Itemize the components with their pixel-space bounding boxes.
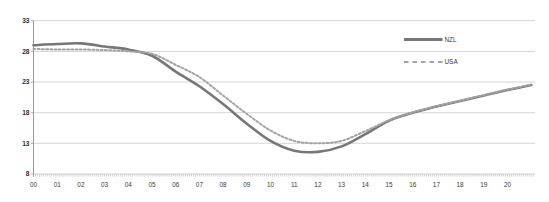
x-tick-label: 19 bbox=[480, 181, 488, 188]
x-tick-label: 00 bbox=[30, 181, 38, 188]
x-tick-label: 10 bbox=[267, 181, 275, 188]
x-tick-label: 05 bbox=[148, 181, 156, 188]
x-tick-label: 02 bbox=[77, 181, 85, 188]
x-tick-label: 03 bbox=[101, 181, 109, 188]
x-tick-label: 16 bbox=[409, 181, 417, 188]
x-tick-label: 07 bbox=[196, 181, 204, 188]
chart-canvas: 3328231813800010203040506070809101112131… bbox=[0, 0, 549, 202]
legend-label-nzl: NZL bbox=[445, 36, 458, 43]
x-tick-label: 06 bbox=[172, 181, 180, 188]
x-tick-label: 12 bbox=[314, 181, 322, 188]
x-tick-label: 13 bbox=[338, 181, 346, 188]
y-tick-label: 28 bbox=[22, 48, 30, 55]
line-chart-figure: 3328231813800010203040506070809101112131… bbox=[0, 0, 549, 202]
x-tick-label: 14 bbox=[362, 181, 370, 188]
x-tick-label: 18 bbox=[457, 181, 465, 188]
x-tick-label: 01 bbox=[54, 181, 62, 188]
y-tick-label: 8 bbox=[26, 170, 30, 177]
x-tick-label: 04 bbox=[125, 181, 133, 188]
x-tick-label: 20 bbox=[504, 181, 512, 188]
y-tick-label: 23 bbox=[22, 78, 30, 85]
x-tick-label: 11 bbox=[291, 181, 298, 188]
y-tick-label: 18 bbox=[22, 109, 30, 116]
x-tick-label: 09 bbox=[243, 181, 251, 188]
y-tick-label: 13 bbox=[22, 140, 30, 147]
x-tick-label: 08 bbox=[220, 181, 228, 188]
x-tick-label: 15 bbox=[385, 181, 393, 188]
x-tick-label: 17 bbox=[433, 181, 441, 188]
legend-label-usa: USA bbox=[445, 58, 459, 65]
y-tick-label: 33 bbox=[22, 17, 30, 24]
